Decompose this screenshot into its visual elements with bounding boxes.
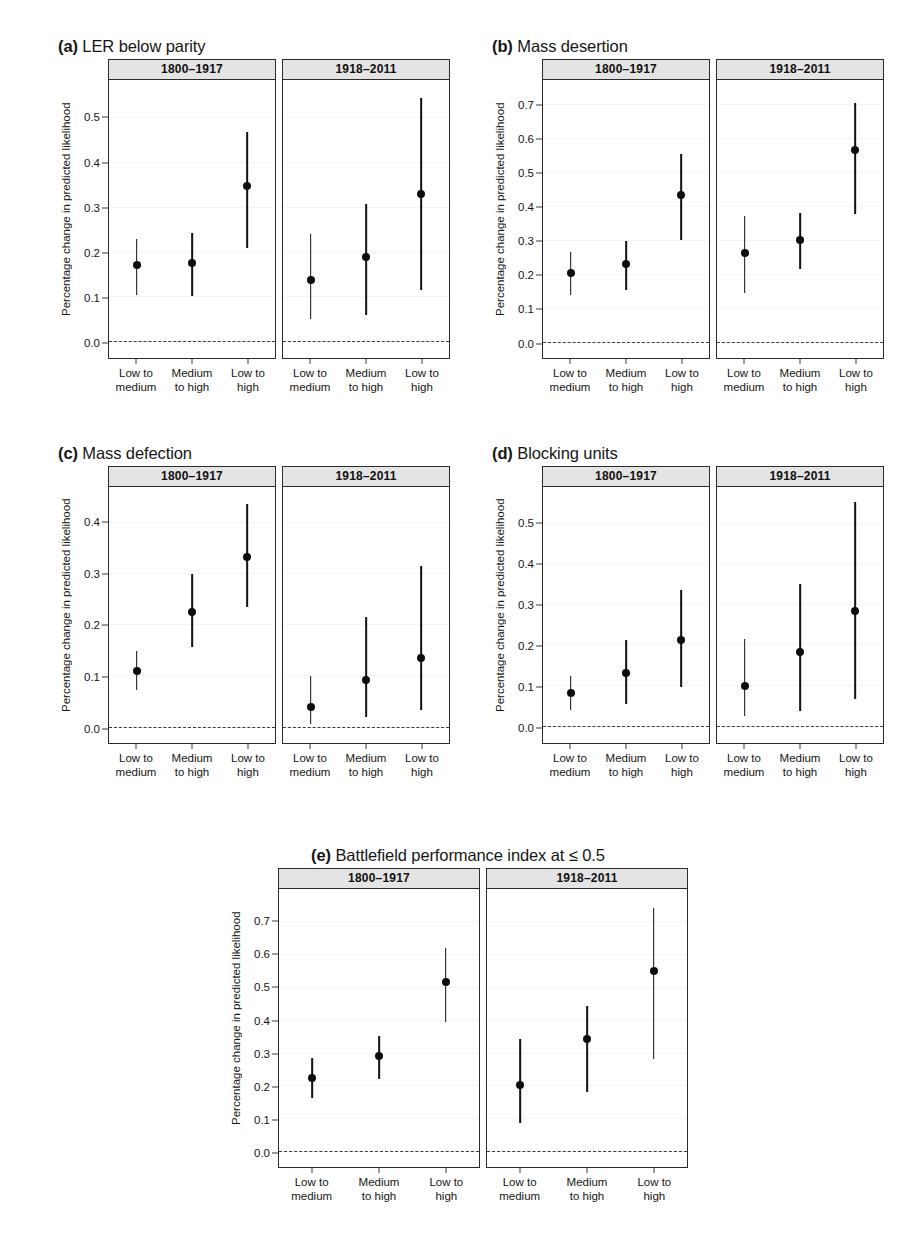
zero-reference-line xyxy=(279,1151,479,1152)
y-tick-label: 0.1 xyxy=(518,681,534,693)
x-tick-label-line2: medium xyxy=(291,1189,332,1203)
x-tick-label-line1: Medium xyxy=(346,751,387,765)
panel-d: (d) Blocking units Percentage change in … xyxy=(492,443,884,786)
data-point xyxy=(442,978,450,986)
x-tick-label-line1: Low to xyxy=(839,751,873,765)
x-tick-label: Low tomedium xyxy=(550,366,591,394)
y-tick-label: 0.0 xyxy=(518,338,534,350)
y-tick-mark xyxy=(536,343,542,344)
y-tick-label: 0.3 xyxy=(84,202,100,214)
y-tick-mark xyxy=(536,138,542,139)
x-tick-mark xyxy=(248,359,249,364)
panel-a-facets: 1800–1917 1918–2011 xyxy=(108,59,450,359)
gridline xyxy=(717,308,883,309)
x-tick-label-line2: to high xyxy=(359,1189,400,1203)
y-tick-mark xyxy=(102,298,108,299)
x-tick-label: Mediumto high xyxy=(346,751,387,779)
gridline xyxy=(279,987,479,988)
y-tick-mark xyxy=(272,954,278,955)
x-tick-mark xyxy=(587,1168,588,1173)
panel-c-xaxis-0: Low tomediumMediumto highLow tohigh xyxy=(108,744,276,786)
panel-b: (b) Mass desertion Percentage change in … xyxy=(492,36,884,401)
y-tick-mark xyxy=(536,207,542,208)
y-tick-mark xyxy=(536,645,542,646)
y-tick-mark xyxy=(536,604,542,605)
panel-e: (e) Battlefield performance index at ≤ 0… xyxy=(228,845,688,1210)
y-tick-label: 0.1 xyxy=(254,1114,270,1126)
y-tick-label: 0.6 xyxy=(254,948,270,960)
x-tick-label-line2: to high xyxy=(346,765,387,779)
gridline xyxy=(717,104,883,105)
x-tick-mark xyxy=(311,1168,312,1173)
data-point xyxy=(851,146,859,154)
gridline xyxy=(279,1118,479,1119)
data-point xyxy=(307,276,315,284)
gridline xyxy=(279,921,479,922)
x-tick-label: Low tomedium xyxy=(116,366,157,394)
x-tick-mark xyxy=(654,1168,655,1173)
x-tick-label-line1: Low to xyxy=(839,366,873,380)
y-tick-mark xyxy=(102,162,108,163)
panel-c: (c) Mass defection Percentage change in … xyxy=(58,443,450,786)
panel-b-facet-1-strip: 1918–2011 xyxy=(717,60,883,80)
x-tick-label: Low tomedium xyxy=(724,751,765,779)
y-tick-mark xyxy=(102,522,108,523)
x-tick-label: Low tohigh xyxy=(839,366,873,394)
data-point xyxy=(622,260,630,268)
data-point xyxy=(741,682,749,690)
gridline xyxy=(717,523,883,524)
panel-d-xaxis-1: Low tomediumMediumto highLow tohigh xyxy=(716,744,884,786)
panel-a-yaxis-ticks: 0.00.10.20.30.40.5 xyxy=(74,59,108,359)
y-tick-label: 0.0 xyxy=(84,337,100,349)
x-tick-label-line2: to high xyxy=(606,380,647,394)
panel-b-facet-0-strip: 1800–1917 xyxy=(543,60,709,80)
error-bar xyxy=(420,566,422,710)
data-point xyxy=(133,667,141,675)
x-tick-label: Mediumto high xyxy=(359,1175,400,1203)
x-tick-label-line1: Medium xyxy=(567,1175,608,1189)
y-tick-label: 0.5 xyxy=(518,517,534,529)
x-tick-label-line1: Low to xyxy=(291,1175,332,1189)
panel-d-xaxis-0: Low tomediumMediumto highLow tohigh xyxy=(542,744,710,786)
panel-d-title: (d) Blocking units xyxy=(492,443,884,463)
gridline xyxy=(109,162,275,163)
y-tick-mark xyxy=(536,275,542,276)
x-tick-label: Mediumto high xyxy=(567,1175,608,1203)
y-tick-label: 0.2 xyxy=(84,247,100,259)
x-tick-label-line1: Low to xyxy=(665,366,699,380)
x-tick-label-line2: high xyxy=(637,1189,671,1203)
x-tick-mark xyxy=(682,744,683,749)
gridline xyxy=(717,563,883,564)
x-tick-label-line2: high xyxy=(839,765,873,779)
y-tick-label: 0.2 xyxy=(254,1081,270,1093)
panel-d-plot-0 xyxy=(543,487,709,743)
x-tick-label-line2: to high xyxy=(606,765,647,779)
x-tick-mark xyxy=(626,744,627,749)
y-tick-mark xyxy=(102,117,108,118)
x-tick-label-line1: Medium xyxy=(606,751,647,765)
x-tick-label-line1: Low to xyxy=(499,1175,540,1189)
y-tick-label: 0.5 xyxy=(254,981,270,993)
x-tick-label-line2: to high xyxy=(780,380,821,394)
gridline xyxy=(109,675,275,676)
panel-a-plot-1 xyxy=(283,80,449,358)
y-tick-label: 0.1 xyxy=(84,671,100,683)
data-point xyxy=(567,689,575,697)
y-tick-mark xyxy=(102,343,108,344)
y-tick-label: 0.4 xyxy=(254,1015,270,1027)
x-tick-label-line2: to high xyxy=(172,765,213,779)
panel-c-plot-0 xyxy=(109,487,275,743)
x-tick-label: Low tomedium xyxy=(291,1175,332,1203)
x-tick-label-line2: medium xyxy=(724,380,765,394)
x-tick-label-line2: medium xyxy=(116,380,157,394)
panel-e-tag: (e) xyxy=(311,846,331,864)
gridline xyxy=(543,604,709,605)
gridline xyxy=(717,206,883,207)
panel-e-yaxis-ticks: 0.00.10.20.30.40.50.60.7 xyxy=(244,868,278,1168)
data-point xyxy=(362,676,370,684)
panel-a-tag: (a) xyxy=(58,37,78,55)
x-tick-mark xyxy=(519,1168,520,1173)
y-tick-mark xyxy=(272,1020,278,1021)
y-tick-label: 0.3 xyxy=(518,599,534,611)
y-tick-label: 0.5 xyxy=(518,167,534,179)
